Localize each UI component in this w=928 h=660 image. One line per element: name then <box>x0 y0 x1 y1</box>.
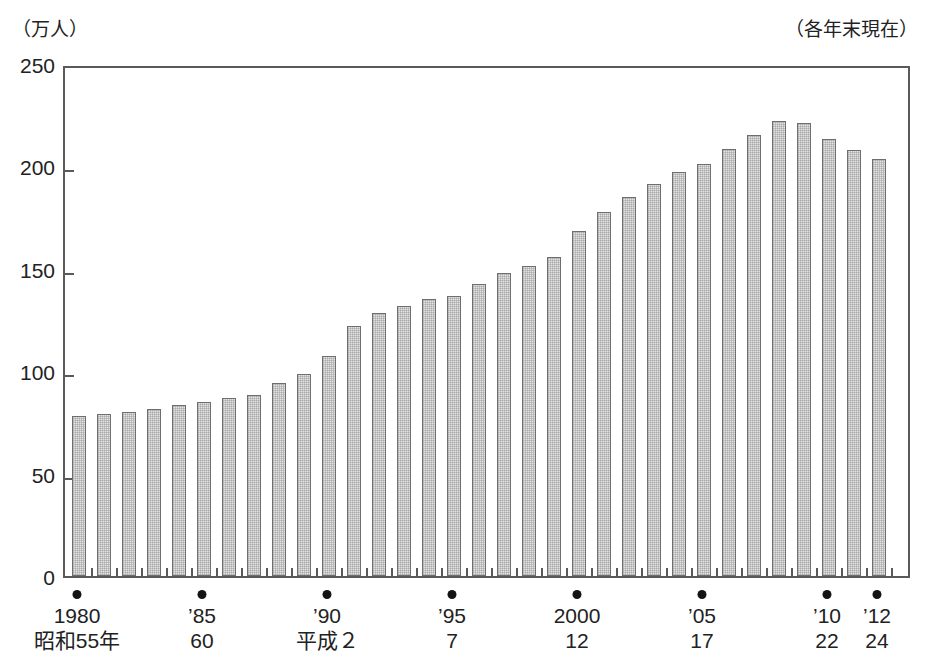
bar-2007 <box>747 135 761 576</box>
y-tick-label-200: 200 <box>0 156 55 180</box>
x-tick-mark-16 <box>491 568 493 577</box>
year-marker-dot-1980 <box>73 590 82 599</box>
x-label-2000: 200012 <box>554 603 601 653</box>
bar-2004 <box>672 172 686 576</box>
x-tick-mark-19 <box>566 568 568 577</box>
x-label-western-2012: ’12 <box>863 604 891 627</box>
y-tick-label-150: 150 <box>0 259 55 283</box>
bar-1984 <box>172 405 186 576</box>
y-tick-label-0: 0 <box>0 566 55 590</box>
x-tick-mark-29 <box>816 568 818 577</box>
x-tick-mark-22 <box>641 568 643 577</box>
x-tick-mark-21 <box>616 568 618 577</box>
bar-2002 <box>622 197 636 576</box>
y-tick-label-50: 50 <box>0 464 55 488</box>
bar-1991 <box>347 326 361 576</box>
x-tick-mark-10 <box>341 568 343 577</box>
x-label-western-1990: ’90 <box>313 604 341 627</box>
year-marker-dot-1985 <box>198 590 207 599</box>
bar-2010 <box>822 139 836 576</box>
x-tick-mark-6 <box>241 568 243 577</box>
x-tick-mark-14 <box>441 568 443 577</box>
bar-2000 <box>572 231 586 576</box>
x-tick-mark-27 <box>766 568 768 577</box>
year-marker-dot-2010 <box>823 590 832 599</box>
as-of-annotation: （各年末現在） <box>785 14 918 41</box>
bar-1997 <box>497 273 511 577</box>
bar-1987 <box>247 395 261 576</box>
year-marker-dot-1990 <box>323 590 332 599</box>
bar-1980 <box>72 416 86 576</box>
x-label-1985: ’8560 <box>188 603 216 653</box>
x-label-2010: ’1022 <box>813 603 841 653</box>
x-tick-mark-4 <box>191 568 193 577</box>
bar-1982 <box>122 412 136 576</box>
bar-1985 <box>197 402 211 576</box>
bar-2009 <box>797 123 811 576</box>
x-label-1990: ’90平成２ <box>296 603 359 653</box>
bar-2012 <box>872 159 886 576</box>
bar-series <box>65 68 908 576</box>
x-label-western-1995: ’95 <box>438 604 466 627</box>
x-label-era-2012: 24 <box>863 628 891 653</box>
x-label-era-2010: 22 <box>813 628 841 653</box>
bar-1992 <box>372 313 386 576</box>
bar-2008 <box>772 121 786 576</box>
bar-2001 <box>597 212 611 576</box>
year-marker-dot-2012 <box>873 590 882 599</box>
x-label-2012: ’1224 <box>863 603 891 653</box>
x-label-1995: ’957 <box>438 603 466 653</box>
x-label-2005: ’0517 <box>688 603 716 653</box>
bar-1981 <box>97 414 111 576</box>
y-tick-label-250: 250 <box>0 54 55 78</box>
x-tick-mark-20 <box>591 568 593 577</box>
x-label-1980: 1980昭和55年 <box>34 603 120 653</box>
bar-2005 <box>697 164 711 576</box>
bar-2003 <box>647 184 661 576</box>
x-label-era-1980: 昭和55年 <box>34 628 120 653</box>
x-tick-mark-24 <box>691 568 693 577</box>
year-marker-dot-2005 <box>698 590 707 599</box>
bar-2006 <box>722 149 736 576</box>
x-label-era-1985: 60 <box>188 628 216 653</box>
x-tick-mark-32 <box>891 568 893 577</box>
x-label-era-1995: 7 <box>438 628 466 653</box>
x-label-western-2000: 2000 <box>554 604 601 627</box>
x-tick-mark-26 <box>741 568 743 577</box>
x-tick-mark-17 <box>516 568 518 577</box>
bar-1983 <box>147 409 161 576</box>
y-axis-unit-label: （万人） <box>12 14 88 41</box>
x-label-era-1990: 平成２ <box>296 628 359 653</box>
year-marker-dot-1995 <box>448 590 457 599</box>
x-tick-mark-5 <box>216 568 218 577</box>
x-label-western-1985: ’85 <box>188 604 216 627</box>
x-label-western-1980: 1980 <box>54 604 101 627</box>
bar-1988 <box>272 383 286 576</box>
bar-1986 <box>222 398 236 576</box>
bar-1995 <box>447 296 461 576</box>
bar-1996 <box>472 284 486 576</box>
y-tick-label-100: 100 <box>0 361 55 385</box>
x-tick-mark-23 <box>666 568 668 577</box>
bar-1999 <box>547 257 561 576</box>
x-tick-mark-0 <box>91 568 93 577</box>
x-tick-mark-11 <box>366 568 368 577</box>
x-tick-mark-2 <box>141 568 143 577</box>
x-tick-mark-8 <box>291 568 293 577</box>
x-tick-mark-25 <box>716 568 718 577</box>
x-tick-mark-1 <box>116 568 118 577</box>
x-label-era-2000: 12 <box>554 628 601 653</box>
x-tick-mark-13 <box>416 568 418 577</box>
x-label-era-2005: 17 <box>688 628 716 653</box>
x-tick-mark-28 <box>791 568 793 577</box>
bar-1990 <box>322 356 336 576</box>
x-tick-mark-7 <box>266 568 268 577</box>
x-tick-mark-31 <box>866 568 868 577</box>
x-tick-mark-12 <box>391 568 393 577</box>
chart-container: （万人） （各年末現在） 050100150200250 1980昭和55年’8… <box>0 0 928 660</box>
x-tick-mark-30 <box>841 568 843 577</box>
x-label-western-2005: ’05 <box>688 604 716 627</box>
x-tick-mark-9 <box>316 568 318 577</box>
bar-1998 <box>522 266 536 576</box>
x-tick-mark-3 <box>166 568 168 577</box>
